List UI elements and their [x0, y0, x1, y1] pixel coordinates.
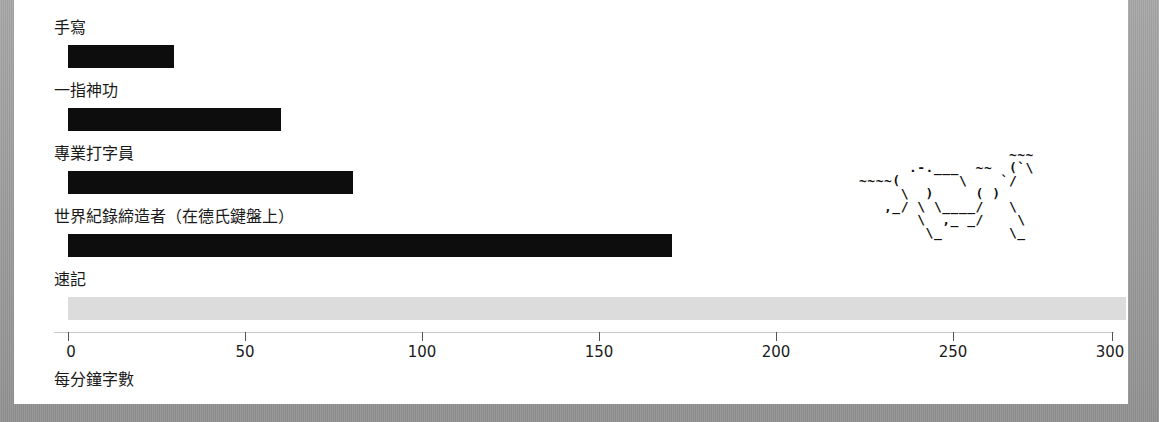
- x-axis-tick-0: [68, 332, 69, 341]
- x-axis-tick-150: [599, 332, 600, 341]
- x-axis-tick-200: [776, 332, 777, 341]
- x-axis-tick-label-150: 150: [585, 343, 614, 361]
- x-axis-tick-100: [422, 332, 423, 341]
- x-axis-line: [54, 332, 1114, 333]
- bar-rect-3: [68, 171, 353, 194]
- bar-label-2: 一指神功: [54, 83, 118, 99]
- x-axis-tick-label-200: 200: [762, 343, 791, 361]
- bar-label-4: 世界紀錄締造者（在德氏鍵盤上）: [54, 209, 294, 225]
- x-axis-tick-label-250: 250: [939, 343, 968, 361]
- ascii-art-animal: ~~~ .-.___ ~~ (`\ ~~~~( \ `/ \ ) ( ) ,_/…: [859, 148, 1034, 239]
- x-axis-tick-50: [245, 332, 246, 341]
- x-axis-tick-label-300: 300: [1096, 343, 1125, 361]
- x-axis-tick-label-100: 100: [408, 343, 437, 361]
- bar-label-1: 手寫: [54, 20, 86, 36]
- x-axis-title: 每分鐘字數: [54, 366, 134, 390]
- bar-label-5: 速記: [54, 272, 86, 288]
- bar-rect-1: [68, 45, 174, 68]
- bar-rect-2: [68, 108, 281, 131]
- x-axis-tick-label-50: 50: [235, 343, 254, 361]
- x-axis-tick-300: [1112, 332, 1113, 341]
- x-axis-tick-label-0: 0: [66, 343, 76, 361]
- horizontal-bar-chart: 手寫 一指神功 專業打字員 世界紀錄締造者（在德氏鍵盤上） 速記: [14, 0, 1128, 404]
- bar-rect-5: [68, 297, 1126, 320]
- scanned-page-frame: 手寫 一指神功 專業打字員 世界紀錄締造者（在德氏鍵盤上） 速記: [0, 0, 1159, 422]
- bar-label-3: 專業打字員: [54, 146, 134, 162]
- x-axis-tick-250: [953, 332, 954, 341]
- paper-sheet: 手寫 一指神功 專業打字員 世界紀錄締造者（在德氏鍵盤上） 速記: [14, 0, 1128, 404]
- bar-rect-4: [68, 234, 672, 257]
